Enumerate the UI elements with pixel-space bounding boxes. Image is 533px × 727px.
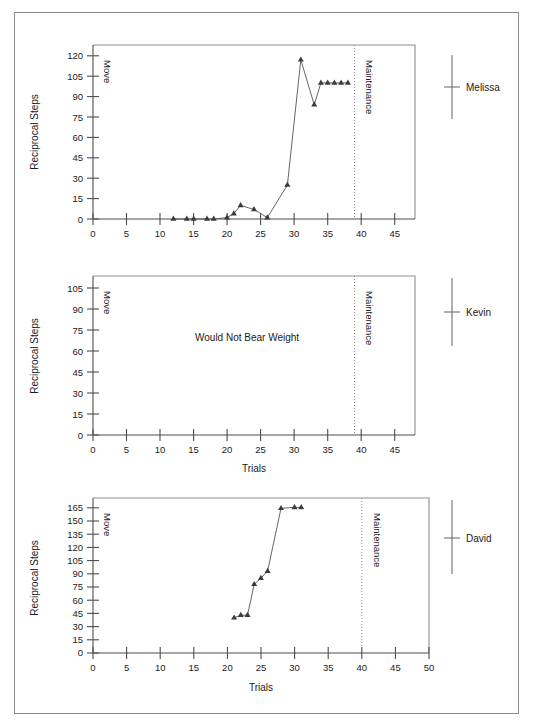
x-tick-label: 5 (124, 444, 129, 455)
subject-bracket-kevin (444, 278, 460, 346)
y-axis-title-melissa: Reciprocal Steps (29, 94, 40, 170)
y-tick-label: 150 (67, 515, 83, 526)
y-tick-label: 45 (72, 152, 83, 163)
phase-label-move-david: Move (102, 513, 113, 536)
y-tick-label: 45 (72, 608, 83, 619)
phase-label-move-kevin: Move (102, 291, 113, 314)
phase-label-maintenance-kevin: Maintenance (364, 291, 375, 345)
panel-kevin: 0 15 30 45 60 75 90 105 (0, 248, 533, 478)
y-tick-labels-kevin: 0 15 30 45 60 75 90 105 (67, 283, 83, 441)
x-tick-label: 30 (289, 444, 300, 455)
panel-david: 0 15 30 45 60 75 90 105 120 135 150 165 (0, 478, 533, 718)
x-tick-label: 25 (256, 662, 267, 673)
data-markers-melissa (170, 56, 351, 220)
data-series-david (231, 504, 304, 620)
x-tick-labels-melissa: 0 5 10 15 20 25 30 35 40 45 (90, 228, 400, 239)
y-tick-label: 60 (72, 595, 83, 606)
x-axis-title-kevin: Trials (242, 463, 266, 474)
x-axis-title-david: Trials (249, 682, 273, 693)
x-tick-label: 10 (155, 444, 166, 455)
x-tick-label: 45 (389, 444, 400, 455)
subject-label-kevin: Kevin (466, 307, 491, 318)
y-tick-label: 135 (67, 529, 83, 540)
y-tick-label: 105 (67, 555, 83, 566)
x-tick-label: 35 (323, 662, 334, 673)
y-tick-label: 15 (72, 193, 83, 204)
y-tick-label: 15 (72, 634, 83, 645)
x-tick-label: 45 (389, 228, 400, 239)
y-tick-label: 105 (67, 283, 83, 294)
subject-bracket-melissa (444, 55, 460, 119)
x-tick-label: 0 (90, 228, 95, 239)
x-tick-label: 40 (356, 444, 367, 455)
y-tick-label: 75 (72, 325, 83, 336)
y-tick-label: 30 (72, 621, 83, 632)
y-tick-label: 60 (72, 346, 83, 357)
phase-label-maintenance-melissa: Maintenance (364, 60, 375, 114)
x-tick-label: 25 (255, 444, 266, 455)
y-tick-label: 120 (67, 50, 83, 61)
y-tick-label: 0 (78, 647, 83, 658)
x-tick-label: 50 (424, 662, 435, 673)
x-tick-label: 45 (390, 662, 401, 673)
figure-page: 0 15 30 45 60 75 90 105 120 (0, 0, 533, 727)
y-tick-label: 45 (72, 367, 83, 378)
y-tick-label: 90 (72, 91, 83, 102)
x-tick-label: 15 (189, 662, 200, 673)
y-tick-label: 0 (78, 214, 83, 225)
chart-kevin: 0 15 30 45 60 75 90 105 (0, 248, 533, 478)
y-tick-label: 105 (67, 71, 83, 82)
x-tick-label: 0 (90, 444, 95, 455)
x-tick-label: 25 (255, 228, 266, 239)
x-tick-label: 40 (356, 228, 367, 239)
y-tick-label: 0 (78, 430, 83, 441)
x-tick-label: 20 (222, 662, 233, 673)
x-tick-label: 30 (289, 228, 300, 239)
annotation-would-not-bear-weight: Would Not Bear Weight (195, 332, 299, 343)
x-tick-label: 40 (357, 662, 368, 673)
y-tick-label: 75 (72, 112, 83, 123)
data-series-melissa (170, 56, 351, 220)
data-markers-david (231, 504, 304, 620)
x-tick-labels-david: 0 5 10 15 20 25 30 35 40 45 50 (90, 662, 434, 673)
y-tick-labels-david: 0 15 30 45 60 75 90 105 120 135 150 165 (67, 502, 83, 658)
y-tick-labels-melissa: 0 15 30 45 60 75 90 105 120 (67, 50, 83, 224)
x-tick-label: 35 (322, 228, 333, 239)
phase-label-move-melissa: Move (102, 60, 113, 83)
x-tick-label: 0 (90, 662, 95, 673)
x-tick-label: 5 (124, 662, 129, 673)
subject-bracket-david (444, 500, 460, 574)
x-tick-label: 5 (124, 228, 129, 239)
y-tick-label: 30 (72, 388, 83, 399)
y-axis-title-kevin: Reciprocal Steps (29, 318, 40, 394)
phase-label-maintenance-david: Maintenance (372, 513, 383, 567)
y-tick-label: 90 (72, 304, 83, 315)
y-tick-label: 90 (72, 568, 83, 579)
x-tick-label: 15 (188, 444, 199, 455)
subject-label-melissa: Melissa (466, 82, 500, 93)
x-tick-label: 10 (155, 662, 166, 673)
panel-melissa: 0 15 30 45 60 75 90 105 120 (0, 14, 533, 246)
y-tick-label: 120 (67, 542, 83, 553)
y-tick-label: 60 (72, 132, 83, 143)
subject-label-david: David (466, 533, 492, 544)
x-tick-labels-kevin: 0 5 10 15 20 25 30 35 40 45 (90, 444, 400, 455)
y-tick-label: 75 (72, 581, 83, 592)
y-tick-label: 15 (72, 409, 83, 420)
x-tick-label: 20 (222, 228, 233, 239)
y-tick-label: 30 (72, 173, 83, 184)
y-tick-label: 165 (67, 502, 83, 513)
chart-david: 0 15 30 45 60 75 90 105 120 135 150 165 (0, 478, 533, 718)
x-tick-label: 30 (289, 662, 300, 673)
x-tick-label: 10 (155, 228, 166, 239)
x-tick-label: 20 (222, 444, 233, 455)
chart-melissa: 0 15 30 45 60 75 90 105 120 (0, 14, 533, 246)
y-axis-title-david: Reciprocal Steps (29, 540, 40, 616)
x-tick-label: 15 (188, 228, 199, 239)
x-tick-label: 35 (322, 444, 333, 455)
